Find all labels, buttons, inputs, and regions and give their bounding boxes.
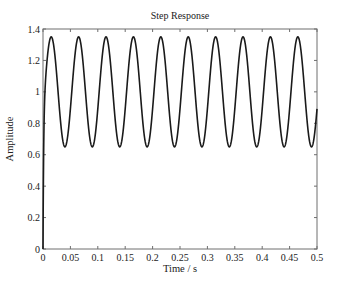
x-tick-label: 0.2 xyxy=(146,252,159,263)
x-tick-label: 0 xyxy=(41,252,46,263)
y-tick-label: 0.4 xyxy=(28,181,41,192)
y-tick-label: 1.2 xyxy=(28,55,41,66)
chart-title: Step Response xyxy=(151,10,210,21)
x-tick-label: 0.5 xyxy=(311,252,324,263)
x-tick-label: 0.1 xyxy=(92,252,105,263)
x-axis-label: Time / s xyxy=(163,263,197,274)
x-tick-label: 0.4 xyxy=(256,252,269,263)
y-tick-label: 0.8 xyxy=(28,118,41,129)
y-tick-label: 0.2 xyxy=(28,212,41,223)
x-tick-label: 0.05 xyxy=(62,252,80,263)
x-tick-label: 0.15 xyxy=(116,252,134,263)
y-tick-label: 0 xyxy=(35,244,40,255)
x-tick-label: 0.45 xyxy=(281,252,299,263)
x-tick-label: 0.3 xyxy=(201,252,214,263)
x-tick-label: 0.25 xyxy=(171,252,189,263)
y-tick-label: 0.6 xyxy=(28,149,41,160)
y-axis-label: Amplitude xyxy=(4,116,15,161)
x-tick-label: 0.35 xyxy=(226,252,244,263)
chart-background xyxy=(0,0,340,290)
y-tick-label: 1.4 xyxy=(28,24,41,35)
y-tick-label: 1 xyxy=(35,86,40,97)
step-response-chart: Step Response 00.050.10.150.20.250.30.35… xyxy=(0,0,340,290)
